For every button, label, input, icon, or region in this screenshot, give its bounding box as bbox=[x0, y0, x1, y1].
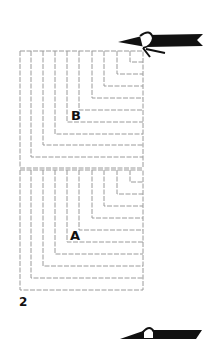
nested-l-line bbox=[55, 170, 143, 254]
figure-number: 2 bbox=[19, 296, 27, 308]
pencil-icon-top bbox=[118, 32, 203, 57]
nested-l-line bbox=[130, 51, 143, 62]
nested-l-line bbox=[104, 51, 143, 86]
nested-l-line bbox=[130, 170, 143, 182]
line-panels bbox=[20, 51, 143, 290]
nested-l-line bbox=[31, 170, 143, 278]
pencil-icon-bottom bbox=[120, 328, 202, 339]
nested-l-line bbox=[104, 170, 143, 206]
nested-l-line bbox=[79, 51, 143, 110]
nested-l-line bbox=[79, 170, 143, 230]
panel-upper bbox=[20, 51, 143, 168]
panel-label-a: A bbox=[70, 229, 80, 242]
nested-squares-diagram bbox=[0, 0, 218, 339]
nested-l-line bbox=[31, 51, 143, 157]
panel-lower bbox=[20, 170, 143, 290]
panel-label-b: B bbox=[71, 109, 81, 122]
